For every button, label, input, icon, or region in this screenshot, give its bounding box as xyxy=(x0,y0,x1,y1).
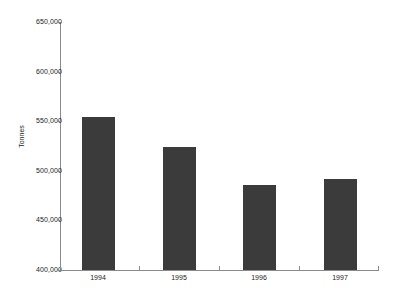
y-tick-group: 450,000 xyxy=(0,220,62,221)
x-category-label-1994: 1994 xyxy=(68,274,128,281)
x-tick-mark xyxy=(299,266,300,271)
y-tick-mark xyxy=(57,121,62,122)
y-tick-group: 650,000 xyxy=(0,22,62,23)
x-category-label-1996: 1996 xyxy=(229,274,289,281)
bar-1996 xyxy=(243,185,276,270)
y-tick-group: 550,000 xyxy=(0,121,62,122)
bar-1994 xyxy=(82,117,115,270)
y-tick-label: 400,000 xyxy=(16,266,62,273)
x-tick-mark xyxy=(378,266,379,271)
y-tick-label: 450,000 xyxy=(16,216,62,223)
y-tick-mark xyxy=(57,220,62,221)
y-tick-group: 400,000 xyxy=(0,270,62,271)
y-tick-mark xyxy=(57,72,62,73)
y-axis-title: Tonnes xyxy=(18,107,25,167)
y-tick-mark xyxy=(57,171,62,172)
y-tick-group: 500,000 xyxy=(0,171,62,172)
x-category-label-1995: 1995 xyxy=(149,274,209,281)
x-tick-mark xyxy=(139,266,140,271)
y-tick-label: 600,000 xyxy=(16,68,62,75)
y-axis-line xyxy=(60,22,61,270)
y-tick-label: 500,000 xyxy=(16,167,62,174)
y-tick-group: 600,000 xyxy=(0,72,62,73)
x-tick-mark xyxy=(219,266,220,271)
bar-1995 xyxy=(163,147,196,270)
bar-1997 xyxy=(324,179,357,270)
bar-chart: Tonnes 650,000 600,000 550,000 500,000 4… xyxy=(0,0,393,299)
y-tick-label: 550,000 xyxy=(16,117,62,124)
y-tick-label: 650,000 xyxy=(16,18,62,25)
y-tick-mark xyxy=(57,22,62,23)
x-tick-mark xyxy=(60,266,61,271)
x-category-label-1997: 1997 xyxy=(310,274,370,281)
